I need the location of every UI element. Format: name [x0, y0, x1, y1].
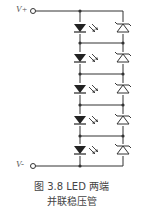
led-icon — [72, 52, 98, 64]
led-icon — [72, 22, 98, 34]
zener-diode-icon — [115, 22, 131, 34]
led-icon — [72, 83, 98, 95]
terminal-top-icon — [31, 9, 36, 14]
zener-diode-icon — [115, 83, 131, 95]
led-icon — [72, 114, 98, 126]
terminal-bottom-icon — [31, 164, 36, 169]
zener-diode-icon — [115, 114, 131, 126]
figure-caption-line2: 并联稳压管 — [0, 195, 143, 209]
zener-diode-icon — [115, 144, 131, 156]
figure-caption-line1: 图 3.8 LED 两端 — [0, 180, 143, 194]
zener-diode-icon — [115, 52, 131, 64]
led-zener-circuit-diagram — [0, 0, 143, 180]
led-icon — [72, 144, 98, 156]
